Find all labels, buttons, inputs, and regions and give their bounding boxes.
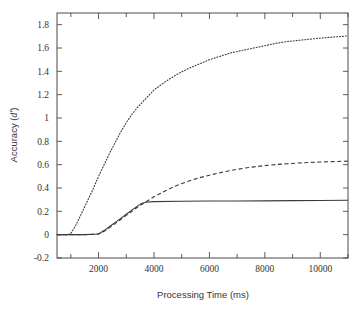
x-axis-title: Processing Time (ms) — [157, 289, 249, 300]
x-axis-tick-labels: 200040006000800010000 — [89, 264, 332, 274]
x-axis-ticks — [71, 13, 348, 258]
line-chart: -0.200.20.40.60.811.21.41.61.8 200040006… — [0, 0, 361, 310]
y-tick-label: 1.4 — [37, 67, 49, 77]
data-curves — [57, 36, 348, 235]
solid-curve — [57, 200, 348, 234]
y-tick-label: 1 — [44, 113, 49, 123]
y-tick-label: 0.8 — [37, 137, 49, 147]
y-axis-title-suffix: ) — [8, 108, 19, 111]
x-tick-label: 8000 — [255, 264, 274, 274]
y-axis-ticks — [57, 25, 348, 258]
y-tick-label: 0.2 — [37, 207, 49, 217]
svg-text:Accuracy (d′): Accuracy (d′) — [8, 108, 19, 163]
chart-figure: -0.200.20.40.60.811.21.41.61.8 200040006… — [0, 0, 361, 310]
y-tick-label: -0.2 — [34, 253, 49, 263]
y-axis-tick-labels: -0.200.20.40.60.811.21.41.61.8 — [34, 20, 49, 263]
y-tick-label: 1.2 — [37, 90, 49, 100]
y-tick-label: 1.8 — [37, 20, 49, 30]
dotted-curve — [57, 36, 348, 235]
x-tick-label: 10000 — [308, 264, 332, 274]
y-tick-label: 0.4 — [37, 183, 49, 193]
x-tick-label: 2000 — [89, 264, 108, 274]
x-tick-label: 4000 — [145, 264, 164, 274]
y-axis-title: Accuracy (d′) — [8, 108, 19, 163]
y-tick-label: 0.6 — [37, 160, 49, 170]
y-axis-title-prefix: Accuracy ( — [8, 117, 19, 163]
y-tick-label: 0 — [44, 230, 49, 240]
y-tick-label: 1.6 — [37, 43, 49, 53]
plot-frame — [57, 13, 348, 258]
x-tick-label: 6000 — [200, 264, 219, 274]
